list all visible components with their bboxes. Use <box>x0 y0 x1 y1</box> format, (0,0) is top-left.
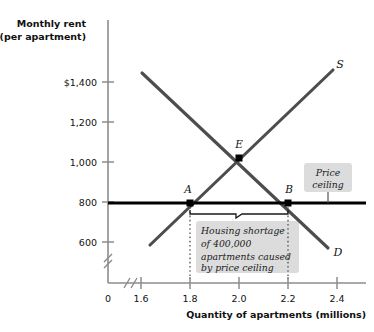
demand-curve-label: D <box>333 246 343 259</box>
x-tick-label-1-6: 1.6 <box>133 293 148 304</box>
supply-curve-label: S <box>336 58 344 71</box>
y-tick-label-800: 800 <box>79 197 97 208</box>
shortage-note-line2: of 400,000 <box>201 238 252 249</box>
point-E-label: E <box>234 138 243 150</box>
point-B-label: B <box>284 183 293 195</box>
shortage-note-line1: Housing shortage <box>200 225 285 236</box>
y-tick-label-1200: 1,200 <box>70 117 97 128</box>
y-axis-title-line1: Monthly rent <box>17 18 87 29</box>
point-A-marker <box>187 200 194 207</box>
point-A-label: A <box>183 183 192 195</box>
x-tick-label-2-0: 2.0 <box>231 293 246 304</box>
point-E-marker <box>236 155 243 162</box>
shortage-note-line4: by price ceiling <box>201 262 274 273</box>
x-tick-label-1-8: 1.8 <box>182 293 197 304</box>
x-tick-label-2-4: 2.4 <box>329 293 344 304</box>
y-axis-title-line2: (per apartment) <box>0 31 86 42</box>
x-axis-title: Quantity of apartments (millions) <box>186 309 366 320</box>
x-tick-label-2-2: 2.2 <box>280 293 295 304</box>
y-tick-label-1000: 1,000 <box>70 157 97 168</box>
price-ceiling-chart: $1,400 1,200 1,000 800 600 1.6 1.8 2.0 2… <box>0 0 374 332</box>
y-tick-label-600: 600 <box>79 237 97 248</box>
price-ceiling-note-line2: ceiling <box>312 179 344 190</box>
y-tick-label-1400: $1,400 <box>64 77 97 88</box>
origin-label: 0 <box>105 293 111 304</box>
shortage-note-line3: apartments caused <box>201 251 291 262</box>
price-ceiling-note-line1: Price <box>315 167 341 178</box>
shortage-bracket <box>190 210 288 218</box>
point-B-marker <box>285 200 292 207</box>
